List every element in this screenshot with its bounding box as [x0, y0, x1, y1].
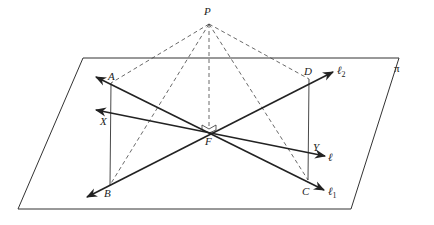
label-l1: ℓ1	[328, 186, 337, 200]
label-l2-sub: 2	[342, 70, 346, 79]
label-P: P	[204, 6, 211, 17]
label-X: X	[100, 116, 107, 127]
label-B: B	[104, 188, 111, 199]
label-pi: π	[394, 63, 400, 74]
label-F: F	[205, 136, 212, 147]
label-Y: Y	[313, 142, 319, 153]
geometry-figure: P A D B C F X Y π ℓ ℓ1 ℓ2	[0, 0, 434, 225]
label-D: D	[304, 66, 312, 77]
label-l2: ℓ2	[337, 65, 346, 79]
segment-DC	[308, 79, 309, 180]
segment-AB	[110, 83, 111, 185]
label-C: C	[302, 186, 309, 197]
line-l	[96, 110, 325, 156]
label-l1-sub: 1	[333, 191, 337, 200]
figure-canvas	[0, 0, 434, 225]
label-l: ℓ	[328, 152, 333, 163]
dashed-projections	[110, 24, 309, 185]
label-A: A	[108, 71, 115, 82]
